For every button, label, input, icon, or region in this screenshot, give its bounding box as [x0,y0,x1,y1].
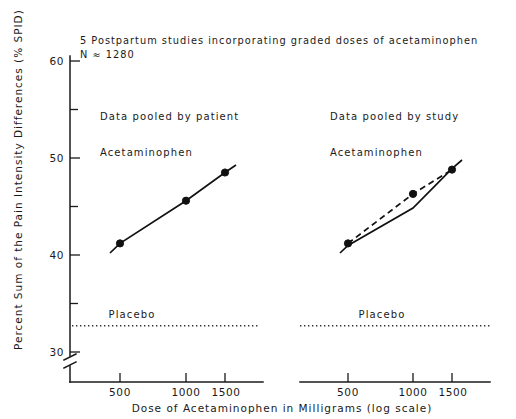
left-x-tick-label-1000: 1000 [171,386,200,398]
y-tick-label-40: 40 [49,249,64,261]
right-x-tick-label-1000: 1000 [398,386,427,398]
right-panel-label: Data pooled by study [330,111,459,122]
right-data-point-1500 [448,166,455,173]
header-line-1: 5 Postpartum studies incorporating grade… [80,35,478,46]
chart-figure: 60 50 40 30 Percent Sum of the Pain Inte… [0,0,516,419]
header-line-2: N ≈ 1280 [80,49,135,60]
chart-canvas: 60 50 40 30 Percent Sum of the Pain Inte… [0,0,516,419]
left-panel-label: Data pooled by patient [100,111,239,122]
right-observed-dashed-line [348,170,452,244]
panel-pooled-by-study: 500 1000 1500 Data pooled by study Aceta… [300,111,490,398]
y-axis: 60 50 40 30 [49,55,80,382]
x-axis-label: Dose of Acetaminophen in Milligrams (log… [132,402,433,414]
right-data-point-1000 [409,190,416,197]
panel-pooled-by-patient: 500 1000 1500 Data pooled by patient Ace… [70,111,263,398]
left-data-point-500 [116,240,123,247]
y-axis-label: Percent Sum of the Pain Intensity Differ… [12,9,24,350]
left-x-tick-label-1500: 1500 [211,386,240,398]
y-tick-label-50: 50 [49,152,64,164]
right-series-label: Acetaminophen [330,147,423,158]
left-series-label: Acetaminophen [100,147,193,158]
right-regression-line [340,160,462,253]
right-placebo-label: Placebo [359,309,406,320]
left-x-tick-label-500: 500 [109,386,131,398]
right-x-tick-label-1500: 1500 [438,386,467,398]
left-placebo-label: Placebo [109,309,156,320]
y-tick-label-30: 30 [49,346,64,358]
left-regression-line [110,165,236,253]
left-data-point-1000 [182,197,189,204]
left-data-point-1500 [221,169,228,176]
right-x-tick-label-500: 500 [337,386,359,398]
y-tick-label-60: 60 [49,55,64,67]
right-data-point-500 [344,240,351,247]
